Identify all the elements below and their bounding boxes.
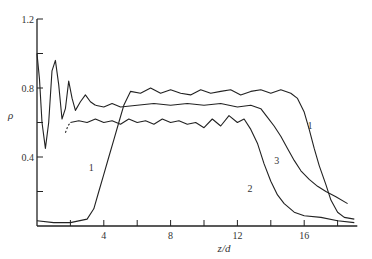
curves [37,54,354,223]
curve-label-2: 2 [247,183,252,194]
curve-label-1: 1 [89,162,94,173]
y-axis-label: ρ [7,109,13,121]
curve-1 [37,88,354,223]
x-axis-label: z/d [217,242,231,254]
chart: 4812160.40.81.2 z/dρ1123 [0,0,372,259]
y-tick-label: 1.2 [22,14,35,25]
x-tick-label: 12 [232,230,242,241]
curve-label-1-b: 1 [308,120,313,131]
y-tick-label: 0.8 [22,83,35,94]
x-tick-label: 8 [168,230,173,241]
curve-3 [95,104,347,204]
curve-near-field [37,54,95,149]
curve-label-3: 3 [274,155,279,166]
labels: z/dρ1123 [7,109,313,254]
x-tick-label: 4 [101,230,106,241]
y-tick-label: 0.4 [22,152,35,163]
x-tick-label: 16 [299,230,309,241]
curve-2 [70,116,354,223]
curve-2-dashed [65,123,70,133]
